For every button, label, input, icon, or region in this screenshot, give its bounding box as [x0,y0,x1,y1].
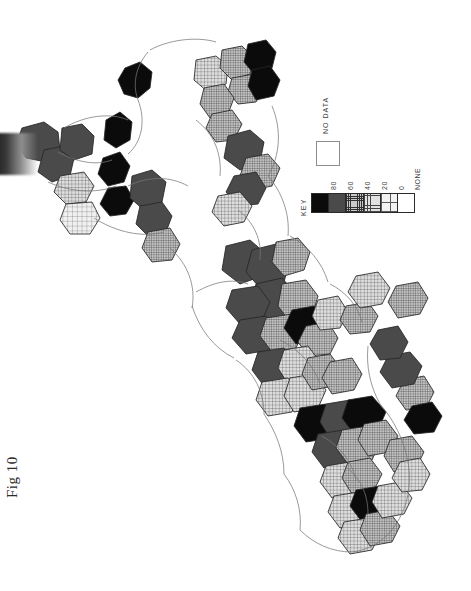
legend-no-data-swatch[interactable] [316,141,340,166]
legend-swatch-60[interactable] [329,194,346,212]
choropleth-map-svg[interactable] [0,0,471,591]
figure-caption: Fig 10 [4,456,21,498]
legend-tick-60: 60 [347,181,354,190]
legend-gradient-bar[interactable] [311,193,415,213]
figure-page: NO DATA KEY 80 60 40 20 0 NONE Fig 10 [0,0,471,591]
legend-no-data-label: NO DATA [322,97,329,134]
legend-swatch-40[interactable] [346,194,363,212]
legend-tick-0: 0 [398,186,405,190]
map-area[interactable] [0,0,471,591]
legend-swatch-none[interactable] [398,194,414,212]
legend-tick-40: 40 [364,181,371,190]
legend-swatch-80[interactable] [312,194,329,212]
legend-title: KEY [300,198,307,216]
legend-swatch-20[interactable] [364,194,381,212]
legend-tick-80: 80 [330,181,337,190]
legend-tick-20: 20 [381,181,388,190]
legend-tick-none: NONE [414,168,421,190]
legend-swatch-0[interactable] [381,194,398,212]
